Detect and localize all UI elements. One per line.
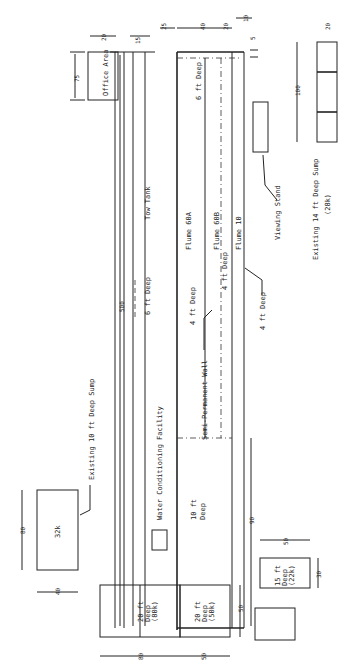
dim-40-sump: 40: [54, 587, 61, 595]
dim-100: 100: [294, 85, 301, 96]
water-conditioning-box: [152, 530, 167, 550]
dim-20-sump: 20: [324, 22, 331, 30]
dim-30: 30: [315, 570, 322, 578]
pit-50k-c: (50k): [208, 601, 216, 622]
deep-10ft-label-b: Deep: [199, 503, 207, 520]
dim-20: 20: [222, 22, 229, 30]
tow-tank-depth: 6 ft Deep: [144, 277, 152, 315]
existing-14ft-sump-box: [317, 42, 337, 142]
water-conditioning-label: Water Conditioning Facility: [156, 406, 164, 520]
flume-10-label: Flume 10: [235, 216, 243, 250]
existing-14ft-sump-label: Existing 14 ft Deep Sump: [312, 159, 320, 260]
pit-80k-c: (80k): [151, 601, 159, 622]
viewing-stand-box: [253, 102, 268, 152]
flume-60a-label: Flume 60A: [185, 211, 193, 250]
dim-5: 5: [249, 36, 256, 40]
dim-10: 10: [242, 14, 249, 22]
dim-25: 25: [160, 22, 167, 30]
flume-60a-depth: 4 ft Deep: [189, 287, 197, 325]
semi-permanent-wall-label: Semi-Permanent Wall: [201, 360, 209, 440]
dim-15: 15: [134, 36, 141, 44]
tow-tank-label: Tow Tank: [144, 185, 152, 220]
existing-10ft-sump-label: Existing 10 ft Deep Sump: [88, 379, 96, 480]
office-area-label: Office Area: [102, 50, 110, 96]
dim-20-office: 20: [100, 33, 107, 41]
dim-90: 90: [248, 516, 255, 524]
dim-50-pit: 50: [237, 604, 244, 612]
sump-32k-label: 32k: [54, 525, 62, 538]
pit-15ft-c: (22k): [288, 565, 296, 586]
dim-50-pit2: 50: [200, 652, 207, 660]
flume-60b-depth: 4 ft Deep: [221, 252, 229, 290]
dim-80-pit: 80: [137, 652, 144, 660]
flume-6ft-depth: 6 ft Deep: [195, 62, 203, 100]
flume-60b-label: Flume 60B: [213, 212, 221, 250]
facility-plan-diagram: 75 20 Office Area 15 500 Tow Tank 6 ft D…: [0, 0, 343, 667]
dim-75: 75: [73, 74, 80, 82]
dim-50-a: 50: [282, 537, 289, 545]
viewing-stand-label: Viewing Stand: [274, 185, 282, 240]
dim-80-sump: 80: [19, 526, 26, 534]
dim-500: 500: [118, 301, 125, 312]
deep-10ft-label-a: 10 ft: [190, 499, 198, 520]
flume-10-depth: 4 ft Deep: [259, 292, 267, 330]
existing-14ft-sump-capacity: (28k): [324, 194, 332, 215]
small-pit-box: [255, 608, 295, 640]
dim-40: 40: [199, 22, 206, 30]
